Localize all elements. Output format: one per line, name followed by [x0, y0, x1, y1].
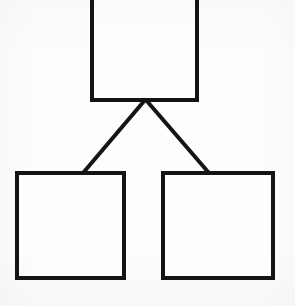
edge-root-to-right-child[interactable]: [146, 100, 209, 173]
diagram-canvas: [0, 0, 295, 306]
node-group: [17, 0, 273, 278]
diagram-figure: [0, 0, 295, 306]
edge-group: [83, 100, 209, 173]
node-child-right-box[interactable]: [163, 173, 273, 278]
node-child-left-box[interactable]: [17, 173, 124, 278]
node-root-box[interactable]: [92, 0, 197, 100]
edge-root-to-left-child[interactable]: [83, 100, 145, 173]
